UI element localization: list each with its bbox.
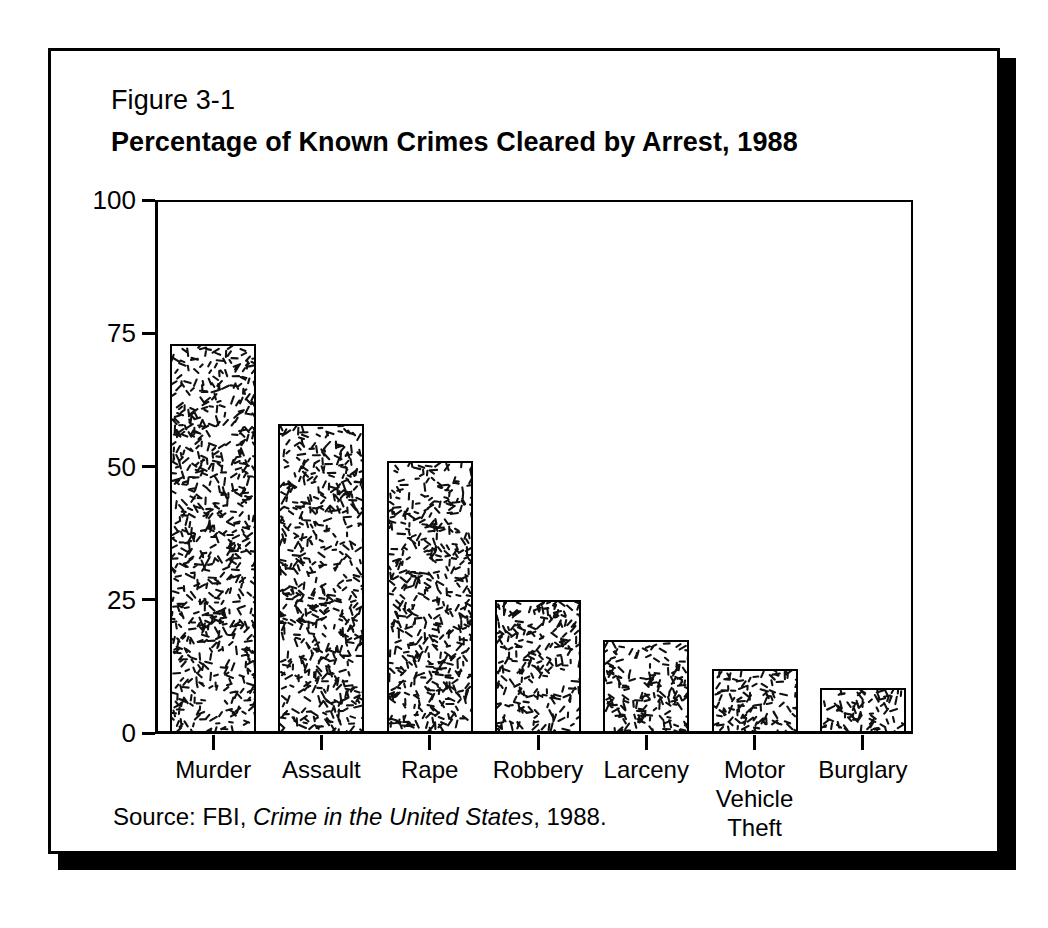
plot-area-frame — [155, 200, 913, 733]
y-axis-label: 25 — [51, 584, 136, 615]
y-axis-tick — [142, 465, 155, 468]
y-axis-tick — [142, 732, 155, 735]
source-suffix: , 1988. — [533, 803, 606, 830]
source-prefix: Source: FBI, — [113, 803, 253, 830]
x-axis-tick — [212, 735, 215, 750]
figure-number: Figure 3-1 — [111, 85, 235, 116]
x-axis-tick — [537, 735, 540, 750]
source-note: Source: FBI, Crime in the United States,… — [113, 803, 607, 831]
y-axis-label: 75 — [51, 318, 136, 349]
source-publication-title: Crime in the United States — [253, 803, 533, 830]
x-axis-tick — [753, 735, 756, 750]
y-axis-label: 0 — [51, 718, 136, 749]
x-axis-tick — [428, 735, 431, 750]
y-axis-label: 50 — [51, 451, 136, 482]
x-axis-tick — [861, 735, 864, 750]
y-axis-tick — [142, 332, 155, 335]
x-axis-tick — [645, 735, 648, 750]
figure-title: Percentage of Known Crimes Cleared by Ar… — [111, 127, 798, 158]
y-axis-label: 100 — [51, 185, 136, 216]
x-axis-line — [155, 731, 913, 734]
figure-panel: Figure 3-1 Percentage of Known Crimes Cl… — [48, 48, 1000, 854]
y-axis-tick — [142, 199, 155, 202]
y-axis-line — [155, 200, 158, 733]
x-axis-label: Burglary — [794, 755, 932, 784]
y-axis-tick — [142, 598, 155, 601]
x-axis-tick — [320, 735, 323, 750]
